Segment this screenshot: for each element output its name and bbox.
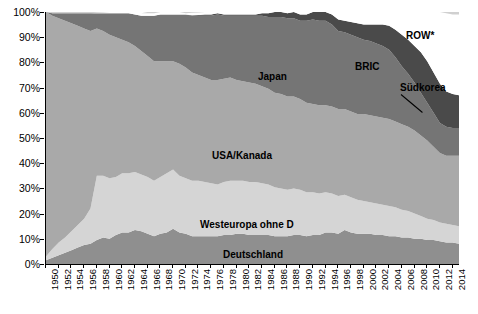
y-axis-tick-mark <box>40 188 44 189</box>
x-axis-tick-mark <box>388 265 389 268</box>
x-axis-tick-mark <box>223 265 224 268</box>
x-axis-tick-label: 1976 <box>214 269 225 290</box>
x-axis-tick-label: 1966 <box>151 269 162 290</box>
x-axis-tick-label: 2006 <box>405 269 416 290</box>
x-axis-tick-label: 1998 <box>354 269 365 290</box>
x-axis-tick-mark <box>147 265 148 268</box>
x-axis-tick-label: 1990 <box>303 269 314 290</box>
x-axis-tick-mark <box>299 265 300 268</box>
x-axis-tick-label: 1996 <box>341 269 352 290</box>
x-axis-tick-label: 2008 <box>418 269 429 290</box>
x-axis-tick-mark <box>286 265 287 268</box>
x-axis-tick-label: 1988 <box>290 269 301 290</box>
y-axis-tick-mark <box>40 88 44 89</box>
x-axis-tick-mark <box>70 265 71 268</box>
x-axis-tick-mark <box>236 265 237 268</box>
x-axis-tick-label: 1992 <box>316 269 327 290</box>
x-axis-tick-mark <box>197 265 198 268</box>
x-axis-tick-mark <box>248 265 249 268</box>
y-axis-tick-label: 40% <box>2 158 40 168</box>
x-axis-tick-label: 1962 <box>125 269 136 290</box>
x-axis-tick-label: 1974 <box>201 269 212 290</box>
series-label-s-dkorea: Südkorea <box>400 82 446 93</box>
x-axis-tick-label: 1994 <box>329 269 340 290</box>
x-axis-tick-mark <box>375 265 376 268</box>
y-axis-tick-mark <box>40 239 44 240</box>
y-axis-tick-mark <box>40 37 44 38</box>
series-label-westeuropa-ohne-d: Westeuropa ohne D <box>200 219 294 230</box>
x-axis-tick-mark <box>439 265 440 268</box>
y-axis-tick-mark <box>40 214 44 215</box>
x-axis-tick-label: 2004 <box>392 269 403 290</box>
x-axis-tick-label: 1978 <box>227 269 238 290</box>
x-axis-tick-mark <box>210 265 211 268</box>
y-axis-tick-mark <box>40 138 44 139</box>
x-axis-tick-label: 1972 <box>189 269 200 290</box>
y-axis-tick-mark <box>40 264 44 265</box>
x-axis-tick-label: 1986 <box>278 269 289 290</box>
y-axis-tick-mark <box>40 113 44 114</box>
x-axis-tick-mark <box>45 265 46 268</box>
x-axis-tick-mark <box>325 265 326 268</box>
x-axis-tick-mark <box>58 265 59 268</box>
x-axis-tick-label: 2012 <box>443 269 454 290</box>
x-axis-tick-mark <box>363 265 364 268</box>
x-axis-tick-mark <box>83 265 84 268</box>
x-axis-tick-label: 1950 <box>49 269 60 290</box>
x-axis-tick-mark <box>121 265 122 268</box>
y-axis-tick-mark <box>40 62 44 63</box>
x-axis-tick-label: 1958 <box>100 269 111 290</box>
series-label-deutschland: Deutschland <box>223 249 283 260</box>
series-label-bric: BRIC <box>355 61 379 72</box>
y-axis-tick-label: 70% <box>2 83 40 93</box>
x-axis-tick-label: 1984 <box>265 269 276 290</box>
y-axis-tick-label: 30% <box>2 183 40 193</box>
x-axis-tick-label: 2014 <box>456 269 467 290</box>
x-axis-tick-mark <box>414 265 415 268</box>
x-axis-tick-label: 1954 <box>74 269 85 290</box>
y-axis-tick-label: 20% <box>2 209 40 219</box>
x-axis-tick-mark <box>172 265 173 268</box>
x-axis-tick-mark <box>261 265 262 268</box>
y-axis-tick-label: 50% <box>2 133 40 143</box>
y-axis-tick-label: 60% <box>2 108 40 118</box>
x-axis-tick-label: 1960 <box>113 269 124 290</box>
x-axis-tick-mark <box>96 265 97 268</box>
y-axis-tick-label: 80% <box>2 57 40 67</box>
x-axis-tick-mark <box>350 265 351 268</box>
x-axis-tick-mark <box>274 265 275 268</box>
series-label-usa-kanada: USA/Kanada <box>212 150 272 161</box>
x-axis-tick-mark <box>337 265 338 268</box>
x-axis-tick-label: 2000 <box>367 269 378 290</box>
series-label-japan: Japan <box>258 71 287 82</box>
x-axis-tick-mark <box>401 265 402 268</box>
y-axis-tick-label: 10% <box>2 234 40 244</box>
x-axis-tick-mark <box>312 265 313 268</box>
series-label-row: ROW* <box>406 30 434 41</box>
x-axis-tick-label: 2010 <box>430 269 441 290</box>
x-axis-tick-label: 1956 <box>87 269 98 290</box>
y-axis-tick-label: 0% <box>2 259 40 269</box>
y-axis-tick-label: 100% <box>2 7 40 17</box>
x-axis-tick-label: 1982 <box>252 269 263 290</box>
y-axis: 0%10%20%30%40%50%60%70%80%90%100% <box>0 12 40 264</box>
x-axis-tick-mark <box>134 265 135 268</box>
stacked-area-chart: 0%10%20%30%40%50%60%70%80%90%100% 195019… <box>0 0 478 314</box>
y-axis-tick-mark <box>40 12 44 13</box>
x-axis-tick-label: 1980 <box>240 269 251 290</box>
x-axis: 1950195219541956195819601962196419661968… <box>45 265 459 314</box>
x-axis-tick-mark <box>426 265 427 268</box>
x-axis-tick-label: 1964 <box>138 269 149 290</box>
x-axis-tick-label: 2002 <box>379 269 390 290</box>
x-axis-tick-mark <box>452 265 453 268</box>
x-axis-tick-mark <box>185 265 186 268</box>
x-axis-tick-mark <box>109 265 110 268</box>
x-axis-tick-label: 1970 <box>176 269 187 290</box>
x-axis-tick-label: 1952 <box>62 269 73 290</box>
y-axis-tick-label: 90% <box>2 32 40 42</box>
x-axis-tick-label: 1968 <box>163 269 174 290</box>
x-axis-tick-mark <box>159 265 160 268</box>
y-axis-tick-mark <box>40 163 44 164</box>
